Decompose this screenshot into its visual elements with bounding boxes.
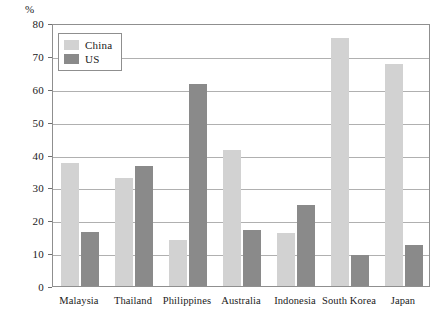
y-tick-label: 0 [14, 282, 44, 293]
bar-us-malaysia [81, 232, 99, 286]
bar-china-malaysia [61, 163, 79, 286]
legend-swatch-china-icon [64, 40, 79, 50]
legend-item-us: US [64, 52, 112, 66]
bar-china-australia [223, 150, 241, 286]
y-tick-mark [48, 123, 52, 124]
bar-china-thailand [115, 178, 133, 286]
bar-us-south-korea [351, 255, 369, 286]
bar-group [331, 25, 369, 286]
bar-chart: % China US MalaysiaThailandPhilippinesAu… [0, 0, 438, 326]
chart-legend: China US [58, 33, 122, 71]
y-tick-mark [48, 221, 52, 222]
bar-china-indonesia [277, 233, 295, 286]
y-tick-mark [48, 156, 52, 157]
legend-label-us: US [85, 53, 99, 65]
legend-label-china: China [85, 39, 112, 51]
y-tick-mark [48, 90, 52, 91]
y-tick-label: 40 [14, 151, 44, 162]
legend-item-china: China [64, 38, 112, 52]
bar-us-philippines [189, 84, 207, 286]
bar-china-philippines [169, 240, 187, 286]
x-tick-label: Japan [364, 295, 438, 307]
bar-us-indonesia [297, 205, 315, 286]
y-tick-label: 20 [14, 216, 44, 227]
bar-group [385, 25, 423, 286]
legend-swatch-us-icon [64, 54, 79, 64]
y-tick-mark [48, 57, 52, 58]
y-tick-label: 70 [14, 52, 44, 63]
y-tick-label: 50 [14, 118, 44, 129]
bar-group [277, 25, 315, 286]
bar-group [169, 25, 207, 286]
y-axis-unit-label: % [25, 4, 34, 15]
y-tick-label: 80 [14, 19, 44, 30]
y-tick-mark [48, 287, 52, 288]
y-tick-label: 60 [14, 85, 44, 96]
bar-china-japan [385, 64, 403, 286]
bar-us-thailand [135, 166, 153, 286]
bar-china-south-korea [331, 38, 349, 286]
y-tick-label: 10 [14, 249, 44, 260]
bar-us-japan [405, 245, 423, 286]
bar-us-australia [243, 230, 261, 286]
y-tick-mark [48, 188, 52, 189]
y-tick-label: 30 [14, 183, 44, 194]
bar-group [223, 25, 261, 286]
y-tick-mark [48, 254, 52, 255]
y-tick-mark [48, 24, 52, 25]
